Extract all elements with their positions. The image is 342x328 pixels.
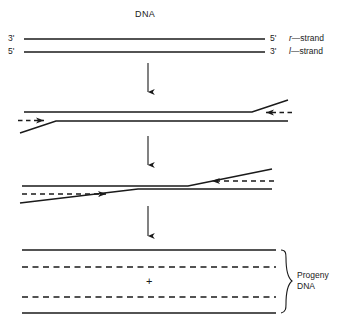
progeny-dna-label-line2: DNA [297,281,329,292]
label-left-5prime: 5' [8,47,14,56]
dna-replication-diagram: DNA 3' 5' 5' 3' r—strand l—strand + Prog… [0,0,342,328]
invasion-lower-strand [20,121,288,133]
l-strand-suffix: —strand [291,46,323,56]
label-right-3prime: 3' [270,47,276,56]
label-right-5prime: 5' [270,34,276,43]
r-strand-suffix: —strand [292,33,324,43]
panel-parental-duplex [24,39,265,52]
label-left-3prime: 3' [8,34,14,43]
page-title: DNA [135,10,155,19]
panel-progeny-dna [22,250,292,313]
progeny-dna-label-line1: Progeny [297,270,329,281]
label-r-strand: r—strand [289,34,324,43]
migration-lower-strand [20,189,272,203]
panel-branch-migration [20,169,274,203]
progeny-brace [281,250,292,313]
invasion-upper-strand [24,100,288,112]
panel-strand-invasion [18,100,292,133]
plus-sign: + [146,276,152,287]
progeny-dna-label: Progeny DNA [297,270,329,292]
migration-upper-strand [22,169,272,186]
label-l-strand: l—strand [289,47,323,56]
